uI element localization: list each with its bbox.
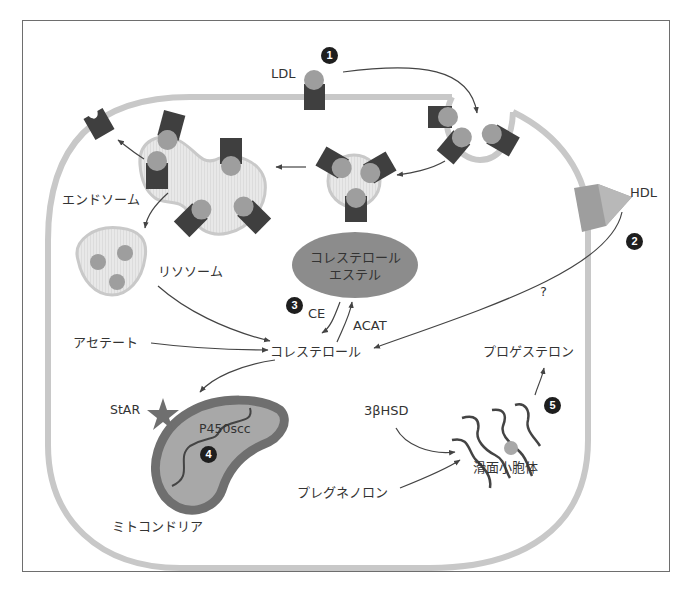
label-smooth-er: 滑面小胞体 [473,461,538,474]
arrow-pregnenolone-to-er [400,460,460,488]
arrow-endosome-to-recycle [118,140,144,159]
label-ce: CE [308,307,325,320]
arrow-hsd-to-er [396,428,455,453]
label-pregnenolone: プレグネノロン [297,486,388,499]
label-3bhsd: 3βHSD [364,404,409,417]
label-p450scc: P450scc [199,423,251,436]
label-cholesterol-ester-line2: エステル [300,266,410,283]
pit-receptors [428,106,520,164]
arrow-ldl-to-pit [343,68,477,113]
arrow-cholesterol-to-mito [200,360,275,392]
step-badge-3: 3 [286,297,303,314]
ldl-receptor-surface [304,70,325,110]
step-badge-2: 2 [626,233,643,250]
internalized-vesicle [315,146,396,222]
label-cholesterol-ester-line1: コレステロール [300,249,410,266]
cell-diagram [0,0,691,616]
label-hdl: HDL [630,186,657,199]
arrow-lysosome-to-cholesterol [158,286,270,341]
smooth-er [452,404,540,488]
label-star: StAR [110,404,140,417]
arrow-er-to-progesterone [535,368,544,395]
arrow-cholesterol-to-ce [337,302,352,342]
step-badge-5: 5 [544,397,561,414]
arrow-acetate-to-cholesterol [151,343,268,350]
label-lysosome: リソソーム [158,265,223,278]
label-endosome: エンドソーム [62,193,140,206]
label-mitochondria: ミトコンドリア [112,520,203,533]
step-badge-1: 1 [321,47,338,64]
endosome [140,110,271,237]
label-cholesterol-ester: コレステロール エステル [300,249,410,283]
label-progesterone: プロゲステロン [483,345,574,358]
hdl-particle [574,184,632,232]
label-cholesterol: コレステロール [270,345,361,358]
step-badge-4: 4 [200,446,217,463]
arrow-pit-to-vesicle [397,161,445,175]
lysosome [77,228,146,295]
label-question: ? [540,285,547,298]
label-acat: ACAT [353,319,387,332]
arrow-hdl-to-cholesterol [374,212,622,348]
mitochondrion [155,400,284,510]
label-ldl: LDL [271,67,296,80]
label-acetate: アセテート [73,336,138,349]
